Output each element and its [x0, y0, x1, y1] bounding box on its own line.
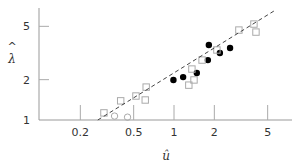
open-square-marker [189, 66, 195, 72]
open-square-marker [236, 27, 242, 33]
x-axis-label: û [162, 149, 170, 163]
fit-line [98, 10, 275, 120]
filled-circle-marker [194, 70, 200, 76]
x-tick-label: 0.5 [125, 126, 143, 139]
series-layer [98, 10, 275, 120]
y-tick-label: 2 [23, 74, 30, 87]
filled-circle-marker [227, 45, 233, 51]
open-square-marker [117, 98, 123, 104]
filled-circle-marker [180, 74, 186, 80]
y-axis-label: ^ λ [7, 40, 16, 66]
svg-text:λ: λ [7, 52, 16, 66]
x-tick-label: 2 [211, 126, 218, 139]
filled-circle-marker [170, 77, 176, 83]
open-circle-marker [111, 113, 117, 119]
scatter-chart: 0.20.5125 125 û ^ λ [0, 0, 299, 168]
open-circle-marker [124, 114, 130, 120]
axes [39, 8, 292, 120]
x-tick-label: 5 [264, 126, 271, 139]
x-tick-label: 0.2 [72, 126, 90, 139]
open-square-marker [251, 21, 257, 27]
y-ticks: 125 [23, 20, 49, 127]
open-square-marker [253, 29, 259, 35]
y-tick-label: 1 [23, 114, 30, 127]
filled-circle-marker [206, 42, 212, 48]
y-tick-label: 5 [23, 20, 30, 33]
open-square-marker [199, 57, 205, 63]
x-tick-label: 1 [171, 126, 178, 139]
open-square-marker [143, 84, 149, 90]
open-square-marker [142, 97, 148, 103]
